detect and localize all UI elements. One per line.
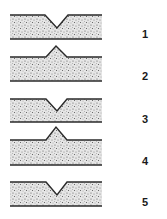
strip-label-5: 5 [139,196,151,208]
strip-4-ridge [10,127,102,165]
strip-label-3: 3 [139,113,151,125]
strip-2-ridge [10,46,102,81]
strip-3-v-notch [10,99,102,122]
strip-1-v-notch [10,15,102,39]
strip-label-4: 4 [139,155,151,167]
strip-label-2: 2 [139,70,151,82]
strip-5-v-notch [10,182,102,206]
strip-label-1: 1 [139,28,151,40]
